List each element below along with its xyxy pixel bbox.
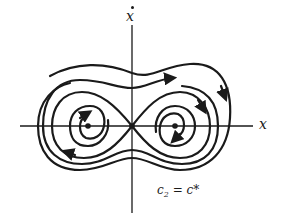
- param-value: c*: [187, 183, 200, 197]
- phase-portrait: [0, 0, 286, 223]
- param-equals: =: [169, 183, 187, 197]
- parameter-label: c2 = c*: [157, 183, 199, 199]
- vertical-axis-label: x: [126, 8, 134, 24]
- horizontal-axis-label: x: [259, 116, 267, 132]
- left-center-point: [85, 123, 91, 129]
- param-var: c: [157, 183, 164, 197]
- right-center-point: [172, 123, 178, 129]
- saddle-point: [129, 123, 135, 129]
